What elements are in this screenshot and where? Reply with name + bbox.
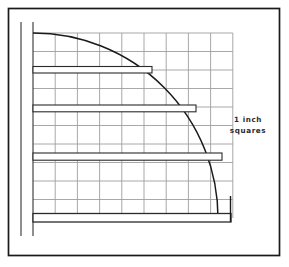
bar-3: [33, 153, 222, 160]
diagram-svg: 1 inch squares: [0, 0, 289, 267]
annotation-line-2: squares: [230, 126, 266, 135]
grid-horizontal-lines: [33, 33, 233, 200]
bar-4-base: [33, 214, 231, 223]
bar-1: [33, 67, 152, 74]
bar-2: [33, 105, 196, 112]
figure-container: 1 inch squares: [0, 0, 289, 267]
annotation-line-1: 1 inch: [234, 115, 262, 124]
